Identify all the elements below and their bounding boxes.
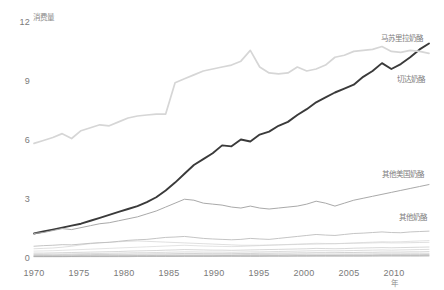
xtick-label-1985: 1985 <box>149 269 189 278</box>
series-line-3 <box>34 231 429 246</box>
series-line-0 <box>34 44 429 234</box>
main-series <box>34 44 429 247</box>
xtick-label-2000: 2000 <box>284 269 324 278</box>
xtick-label-1980: 1980 <box>104 269 144 278</box>
series-line-background-1 <box>34 241 429 252</box>
y-axis-title: 消费量 <box>33 14 54 22</box>
xtick-label-2005: 2005 <box>329 269 369 278</box>
series-label-mozzarella: 马苏里拉奶酪 <box>381 35 423 43</box>
series-label-other-american: 其他美国奶酪 <box>382 171 424 179</box>
xtick-label-2010: 2010 <box>374 269 414 278</box>
ytick-label-0: 0 <box>8 254 30 263</box>
series-label-cheddar: 切达奶酪 <box>397 76 425 84</box>
ytick-label-9: 9 <box>8 77 30 86</box>
series-line-2 <box>34 185 429 234</box>
ytick-label-12: 12 <box>8 18 30 27</box>
line-chart: 12 9 6 3 0 1970 1975 1980 1985 1990 1995… <box>0 0 444 290</box>
ytick-label-6: 6 <box>8 136 30 145</box>
xtick-label-1975: 1975 <box>59 269 99 278</box>
ytick-label-3: 3 <box>8 195 30 204</box>
series-label-other-cheese: 其他奶酪 <box>399 214 427 222</box>
series-line-1 <box>34 46 429 143</box>
xtick-label-1970: 1970 <box>14 269 54 278</box>
chart-plot-area <box>0 0 444 290</box>
xtick-label-1990: 1990 <box>194 269 234 278</box>
x-axis-title: 年 <box>391 280 398 288</box>
xtick-label-1995: 1995 <box>239 269 279 278</box>
